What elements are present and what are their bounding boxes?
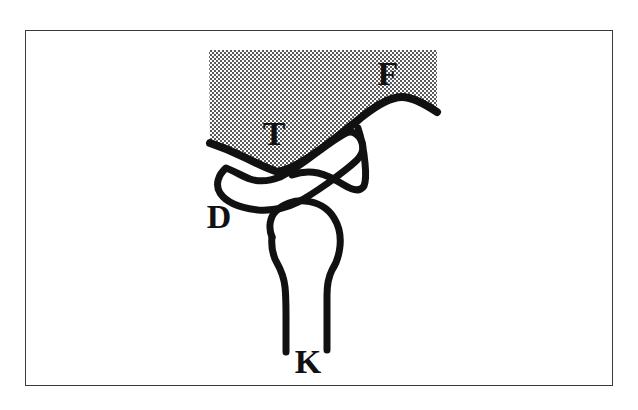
label-disc: D <box>207 198 232 235</box>
figure-root: F T D K <box>0 0 638 410</box>
condyle-left-contour <box>272 237 286 352</box>
label-condyle: K <box>295 343 322 380</box>
anatomy-diagram: F T D K <box>0 0 638 410</box>
label-tubercle: T <box>263 115 286 152</box>
label-fossa: F <box>378 55 399 92</box>
